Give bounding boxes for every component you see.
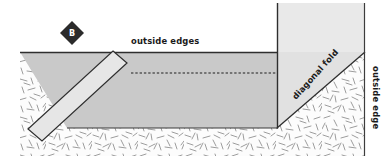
step-badge-b: B <box>60 21 84 45</box>
outside-edge-label: outside edge <box>371 66 381 129</box>
badge-letter: B <box>69 29 75 38</box>
figure-svg: B outside edges diagonal fold outside ed… <box>0 0 385 163</box>
upper-fabric-panel <box>277 3 365 52</box>
outside-edges-label: outside edges <box>131 36 199 46</box>
diagram-root: B outside edges diagonal fold outside ed… <box>0 0 385 163</box>
